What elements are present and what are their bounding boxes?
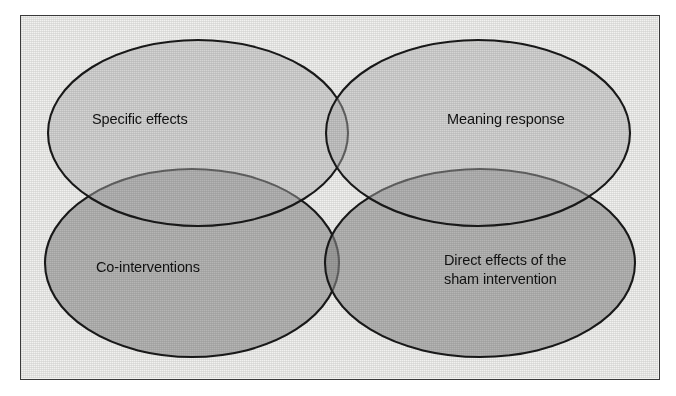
venn-label-co-interventions: Co-interventions [96, 258, 200, 277]
venn-label-direct-effects-sham: Direct effects of the sham intervention [444, 251, 567, 288]
venn-label-specific-effects: Specific effects [92, 110, 188, 129]
venn-label-meaning-response: Meaning response [447, 110, 565, 129]
figure-page: Specific effects Meaning response Co-int… [0, 0, 676, 396]
venn-ellipse-meaning-response [326, 40, 630, 226]
venn-ellipse-specific-effects [48, 40, 348, 226]
venn-diagram [0, 0, 676, 396]
